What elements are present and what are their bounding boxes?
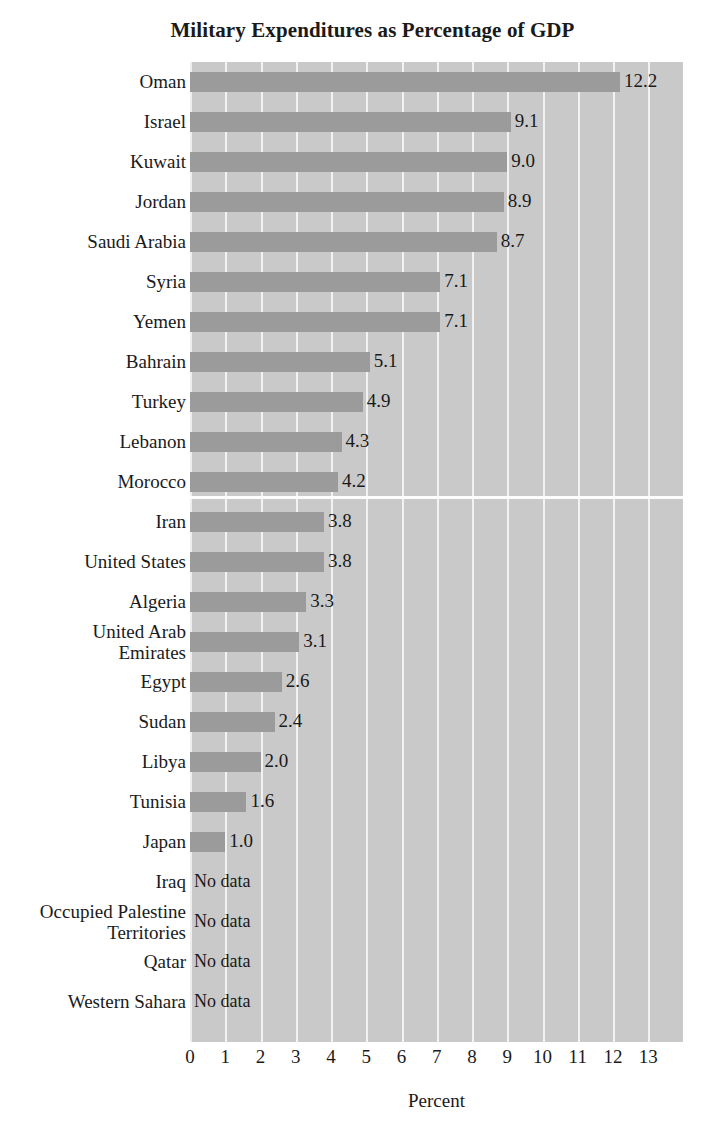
bar-row[interactable]: Syria7.1 [0, 262, 705, 302]
bar[interactable] [190, 712, 275, 732]
bar-value-label: 2.6 [286, 670, 310, 692]
bar-value-label: 1.0 [229, 830, 253, 852]
category-label: Syria [0, 271, 186, 292]
category-label: Turkey [0, 391, 186, 412]
bar-value-label: 2.0 [265, 750, 289, 772]
category-label: Jordan [0, 191, 186, 212]
bar[interactable] [190, 672, 282, 692]
bar-row[interactable]: Sudan2.4 [0, 702, 705, 742]
x-tick-label: 2 [241, 1046, 281, 1068]
bar-row[interactable]: Libya2.0 [0, 742, 705, 782]
chart-title: Military Expenditures as Percentage of G… [0, 18, 705, 43]
no-data-label: No data [194, 990, 250, 1012]
bar-value-label: 2.4 [279, 710, 303, 732]
bar[interactable] [190, 392, 363, 412]
bar-row[interactable]: IraqNo data [0, 862, 705, 902]
no-data-label: No data [194, 870, 250, 892]
category-label: Qatar [0, 951, 186, 972]
category-label: Saudi Arabia [0, 231, 186, 252]
bar-value-label: 9.1 [515, 110, 539, 132]
x-tick-label: 5 [346, 1046, 386, 1068]
bar-value-label: 1.6 [250, 790, 274, 812]
bar-row[interactable]: Occupied Palestine TerritoriesNo data [0, 902, 705, 942]
category-label: Bahrain [0, 351, 186, 372]
category-label: Occupied Palestine Territories [0, 901, 186, 943]
bar-row[interactable]: Algeria3.3 [0, 582, 705, 622]
x-tick-label: 12 [593, 1046, 633, 1068]
bar[interactable] [190, 272, 440, 292]
bar[interactable] [190, 312, 440, 332]
category-label: Algeria [0, 591, 186, 612]
bar-row[interactable]: Egypt2.6 [0, 662, 705, 702]
x-tick-label: 3 [276, 1046, 316, 1068]
bar[interactable] [190, 752, 261, 772]
no-data-label: No data [194, 950, 250, 972]
category-label: United States [0, 551, 186, 572]
bar-row[interactable]: Turkey4.9 [0, 382, 705, 422]
category-label: Kuwait [0, 151, 186, 172]
bar[interactable] [190, 112, 511, 132]
bar-row[interactable]: Bahrain5.1 [0, 342, 705, 382]
category-label: Western Sahara [0, 991, 186, 1012]
x-axis-title: Percent [190, 1090, 683, 1112]
bar-value-label: 7.1 [444, 270, 468, 292]
bar-row[interactable]: Kuwait9.0 [0, 142, 705, 182]
bar-row[interactable]: Lebanon4.3 [0, 422, 705, 462]
bar-row[interactable]: United States3.8 [0, 542, 705, 582]
bar[interactable] [190, 72, 620, 92]
bar-row[interactable]: United Arab Emirates3.1 [0, 622, 705, 662]
bar-value-label: 7.1 [444, 310, 468, 332]
x-tick-label: 4 [311, 1046, 351, 1068]
bar-row[interactable]: Tunisia1.6 [0, 782, 705, 822]
x-tick-label: 13 [628, 1046, 668, 1068]
bar-row[interactable]: Oman12.2 [0, 62, 705, 102]
category-label: Oman [0, 71, 186, 92]
x-tick-label: 7 [417, 1046, 457, 1068]
x-tick-label: 0 [170, 1046, 210, 1068]
bar[interactable] [190, 192, 504, 212]
x-tick-label: 11 [558, 1046, 598, 1068]
bar-row[interactable]: Israel9.1 [0, 102, 705, 142]
bar-row[interactable]: Jordan8.9 [0, 182, 705, 222]
bar[interactable] [190, 552, 324, 572]
x-tick-label: 1 [205, 1046, 245, 1068]
category-label: Libya [0, 751, 186, 772]
bar[interactable] [190, 792, 246, 812]
category-label: Lebanon [0, 431, 186, 452]
bar-value-label: 3.3 [310, 590, 334, 612]
x-tick-label: 10 [523, 1046, 563, 1068]
bar[interactable] [190, 472, 338, 492]
category-label: Tunisia [0, 791, 186, 812]
category-label: Egypt [0, 671, 186, 692]
bar[interactable] [190, 232, 497, 252]
bar-value-label: 4.3 [346, 430, 370, 452]
category-label: Morocco [0, 471, 186, 492]
bar-row[interactable]: Japan1.0 [0, 822, 705, 862]
bar-row[interactable]: Saudi Arabia8.7 [0, 222, 705, 262]
bar[interactable] [190, 432, 342, 452]
bar-row[interactable]: Yemen7.1 [0, 302, 705, 342]
bar[interactable] [190, 832, 225, 852]
x-axis-ticks: 012345678910111213 [190, 1046, 683, 1074]
bar-row[interactable]: Iran3.8 [0, 502, 705, 542]
category-label: Sudan [0, 711, 186, 732]
x-tick-label: 6 [382, 1046, 422, 1068]
bar[interactable] [190, 592, 306, 612]
bar-value-label: 3.8 [328, 510, 352, 532]
category-label: Israel [0, 111, 186, 132]
bar-row[interactable]: Western SaharaNo data [0, 982, 705, 1022]
category-label: United Arab Emirates [0, 621, 186, 663]
bar[interactable] [190, 352, 370, 372]
bar-value-label: 9.0 [511, 150, 535, 172]
bar-value-label: 8.7 [501, 230, 525, 252]
bar-value-label: 3.8 [328, 550, 352, 572]
group-separator-line [190, 496, 683, 499]
bar-value-label: 4.2 [342, 470, 366, 492]
category-label: Iraq [0, 871, 186, 892]
bar[interactable] [190, 632, 299, 652]
bar[interactable] [190, 152, 507, 172]
bar[interactable] [190, 512, 324, 532]
category-label: Japan [0, 831, 186, 852]
x-tick-label: 8 [452, 1046, 492, 1068]
bar-row[interactable]: QatarNo data [0, 942, 705, 982]
